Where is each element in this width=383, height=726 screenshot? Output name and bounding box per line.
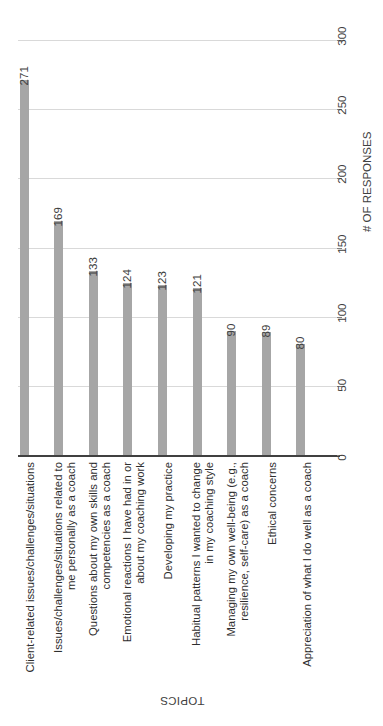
category-label: Issues/challenges/situations related to … — [52, 462, 78, 680]
bar — [262, 332, 271, 455]
bar — [123, 283, 132, 455]
category-label: Appreciation of what I do well as a coac… — [301, 462, 314, 680]
bar-value-label: 89 — [260, 324, 272, 337]
bar-chart: 271169133124123121908980 050100150200250… — [0, 0, 383, 726]
category-label: Client-related issues/challenges/situati… — [24, 462, 37, 680]
value-tick-label: 300 — [337, 27, 349, 46]
gridline — [18, 317, 337, 318]
bar — [89, 271, 98, 455]
bar — [296, 344, 305, 455]
category-label: Emotional reactions I have had in or abo… — [121, 462, 147, 680]
category-label: Questions about my own skills and compet… — [87, 462, 113, 680]
gridline — [18, 40, 337, 41]
bar-value-label: 271 — [18, 66, 30, 86]
bar-value-label: 124 — [122, 269, 134, 289]
bar-value-label: 80 — [295, 337, 307, 350]
bar-value-label: 169 — [53, 207, 65, 227]
value-tick-label: 50 — [337, 379, 349, 392]
bar-value-label: 121 — [191, 274, 203, 294]
value-tick-label: 100 — [337, 303, 349, 322]
value-tick-label: 150 — [337, 234, 349, 253]
bar — [20, 80, 29, 455]
gridline — [18, 248, 337, 249]
value-axis-title: # OF RESPONSES — [362, 132, 374, 232]
value-tick-label: 250 — [337, 96, 349, 115]
category-label: Developing my practice — [162, 462, 175, 680]
category-axis-labels: Client-related issues/challenges/situati… — [0, 458, 383, 683]
plot-area: 271169133124123121908980 — [0, 0, 383, 458]
category-axis-line — [18, 455, 340, 457]
bar — [158, 285, 167, 455]
gridline — [18, 386, 337, 387]
gridline — [18, 178, 337, 179]
category-label: Ethical concerns — [266, 462, 279, 680]
category-axis-title: TOPICS — [160, 694, 204, 706]
bar — [193, 288, 202, 455]
bar-value-label: 123 — [156, 271, 168, 291]
bar — [227, 331, 236, 456]
category-label: Habitual patterns I wanted to change in … — [190, 462, 216, 680]
category-label: Managing my own well-being (e.g., resili… — [225, 462, 251, 680]
bar-value-label: 133 — [87, 257, 99, 277]
bar — [54, 221, 63, 455]
bar-value-label: 90 — [226, 323, 238, 336]
gridline — [18, 109, 337, 110]
value-tick-label: 200 — [337, 165, 349, 184]
